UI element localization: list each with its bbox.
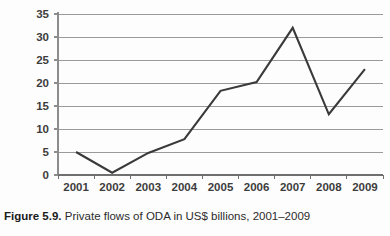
x-axis-tick-label: 2004 bbox=[172, 181, 198, 193]
line-chart: 05101520253035 2001200220032004200520062… bbox=[0, 0, 390, 204]
y-axis-tick-label: 0 bbox=[43, 169, 49, 181]
y-axis-tick-label: 10 bbox=[36, 123, 49, 135]
y-axis-tick-labels: 05101520253035 bbox=[36, 8, 49, 181]
x-axis-tick-label: 2009 bbox=[352, 181, 378, 193]
x-axis-tick-label: 2005 bbox=[208, 181, 234, 193]
y-axis-tick-label: 35 bbox=[36, 8, 49, 20]
x-axis-tick-labels: 200120022003200420052006200720082009 bbox=[63, 181, 377, 193]
y-axis-tick-label: 5 bbox=[43, 146, 50, 158]
y-axis-tick-label: 15 bbox=[36, 100, 49, 112]
y-axis-tick-label: 25 bbox=[36, 54, 49, 66]
figure-caption-text: Private flows of ODA in US$ billions, 20… bbox=[65, 210, 310, 222]
figure-container: 05101520253035 2001200220032004200520062… bbox=[0, 0, 390, 236]
x-axis-tick-label: 2007 bbox=[280, 181, 306, 193]
x-axis-tick-label: 2006 bbox=[244, 181, 270, 193]
data-series-line bbox=[76, 28, 365, 173]
x-axis-tick-label: 2008 bbox=[316, 181, 342, 193]
figure-caption: Figure 5.9. Private flows of ODA in US$ … bbox=[4, 209, 386, 224]
x-axis-tick-label: 2001 bbox=[63, 181, 89, 193]
y-axis-tick-label: 30 bbox=[36, 31, 49, 43]
gridlines-group bbox=[58, 14, 383, 152]
x-tick-marks-group bbox=[58, 175, 383, 179]
chart-plot-area: 05101520253035 2001200220032004200520062… bbox=[0, 0, 390, 204]
x-axis-tick-label: 2002 bbox=[99, 181, 125, 193]
x-axis-tick-label: 2003 bbox=[135, 181, 161, 193]
y-axis-tick-label: 20 bbox=[36, 77, 49, 89]
figure-caption-label: Figure 5.9. bbox=[4, 210, 62, 222]
